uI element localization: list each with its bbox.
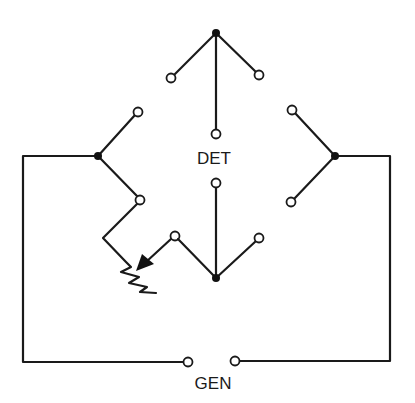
top-junction: [212, 29, 220, 37]
gen-terminal-right: [231, 357, 240, 366]
left-outer-wire: [23, 156, 184, 362]
left-junction: [94, 152, 102, 160]
wiper-line: [146, 239, 171, 262]
terminal: [255, 71, 264, 80]
variable-resistor: [103, 204, 180, 293]
right-outer-wire: [239, 156, 390, 361]
gen-terminal-left: [184, 358, 193, 367]
bottom-node: [178, 179, 264, 283]
resistor-zigzag: [103, 204, 156, 293]
terminal: [255, 234, 264, 243]
terminal: [212, 179, 221, 188]
bottom-junction: [212, 274, 220, 282]
right-node: [287, 106, 340, 207]
terminal: [288, 106, 297, 115]
terminal: [167, 74, 176, 83]
outer-wires: [23, 156, 390, 362]
terminal: [212, 130, 221, 139]
terminal: [287, 198, 296, 207]
det-label: DET: [197, 149, 231, 168]
top-node: [167, 29, 264, 139]
terminal: [134, 108, 143, 117]
bridge-circuit-diagram: GEN DET: [0, 0, 415, 403]
generator: GEN: [184, 357, 240, 394]
gen-label: GEN: [195, 374, 232, 393]
right-junction: [331, 152, 339, 160]
left-node: [94, 108, 145, 205]
